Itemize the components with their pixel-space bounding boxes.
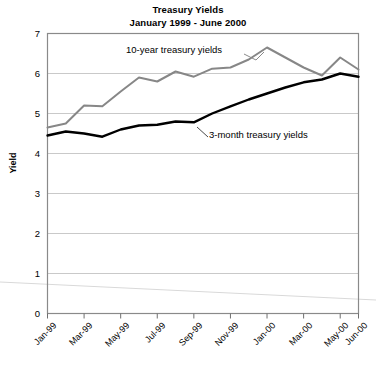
treasury-yields-chart: Treasury Yields January 1999 - June 2000… — [0, 0, 376, 367]
series-annotation-3-month: 3-month treasury yields — [209, 130, 308, 140]
y-tick-2: 2 — [14, 229, 40, 239]
y-tick-5: 5 — [14, 109, 40, 119]
y-tick-1: 1 — [14, 269, 40, 279]
series-annotation-10-year: 10-year treasury yields — [126, 45, 222, 55]
y-tick-3: 3 — [14, 189, 40, 199]
y-tick-7: 7 — [14, 29, 40, 39]
y-tick-4: 4 — [14, 149, 40, 159]
plot-svg — [0, 0, 376, 367]
y-tick-0: 0 — [14, 309, 40, 319]
y-tick-6: 6 — [14, 69, 40, 79]
